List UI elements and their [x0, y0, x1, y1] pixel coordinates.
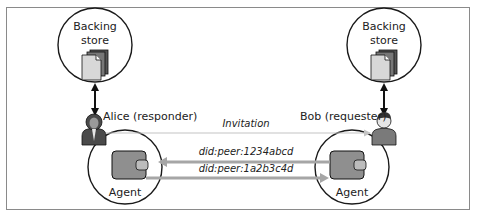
left-store-label-line2: store [81, 34, 109, 47]
left-wallet-icon [112, 151, 148, 179]
right-store-label-line1: Backing [362, 20, 406, 33]
left-agent-label: Agent [109, 186, 142, 199]
right-wallet-icon [330, 151, 366, 179]
right-agent-label: Agent [336, 186, 369, 199]
invitation-label: Invitation [222, 118, 269, 129]
left-backing-store: Backing store [58, 8, 132, 82]
diagram-canvas: Backing store Backing store Agent [0, 0, 479, 217]
left-store-label-line1: Backing [73, 20, 117, 33]
bob-label: Bob (requester) [300, 110, 386, 123]
right-backing-store: Backing store [347, 8, 421, 82]
did-1234abcd-label: did:peer:1234abcd [199, 146, 294, 157]
right-store-label-line2: store [370, 34, 398, 47]
alice-label: Alice (responder) [103, 110, 197, 123]
did-1a2b3c4d-label: did:peer:1a2b3c4d [199, 163, 294, 174]
